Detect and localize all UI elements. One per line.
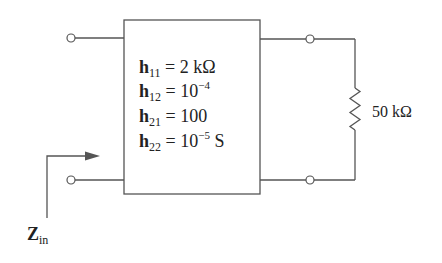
circuit-diagram: 50 kΩ Zin h11 = 2 kΩ h12 = 10−4 h21 = 10… [0,0,442,263]
h12-parameter: h12 = 10−4 [139,79,210,104]
zin-label: Zin [27,224,48,247]
h11-parameter: h11 = 2 kΩ [139,57,216,80]
h22-parameter: h22 = 10−5 S [139,129,224,154]
resistor-icon [350,88,360,130]
h-parameter-list: h11 = 2 kΩ h12 = 10−4 h21 = 100 h22 = 10… [139,57,224,154]
arrow-right-icon [85,152,100,161]
load-label: 50 kΩ [372,103,412,120]
input-bottom-terminal [67,176,75,184]
zin-arrow-line [47,156,88,218]
input-top-terminal [67,34,75,42]
output-bottom-terminal [306,176,314,184]
output-top-terminal [306,35,314,43]
h21-parameter: h21 = 100 [139,106,207,129]
